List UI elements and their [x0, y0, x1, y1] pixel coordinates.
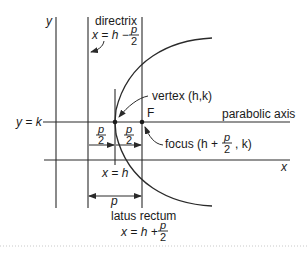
directrix-leader-arrow [91, 41, 104, 52]
x-axis-label: x [280, 160, 288, 174]
directrix-equation: x = h − [91, 28, 129, 42]
y-axis-label: y [45, 14, 53, 28]
focus-label: focus (h + [165, 137, 218, 151]
diagram-svg: y directrix x = h − p 2 vertex (h,k) F p… [0, 0, 307, 257]
axis-equation-label: y = k [15, 115, 43, 129]
focus-frac-den: 2 [224, 143, 230, 155]
directrix-frac-den: 2 [131, 35, 137, 47]
half-p-left-den: 2 [98, 134, 104, 146]
vertex-line-equation: x = h [101, 166, 129, 180]
half-p-right-den: 2 [126, 134, 132, 146]
focus-label-suffix: , k) [235, 137, 252, 151]
parabolic-axis-label: parabolic axis [222, 107, 295, 121]
vertex-point [113, 120, 118, 125]
latus-frac-num: p [159, 219, 166, 231]
focus-frac-num: p [223, 131, 230, 143]
latus-rectum-equation: x = h + [120, 225, 158, 239]
vertex-leader-arrow [119, 96, 148, 117]
parabola-diagram: y directrix x = h − p 2 vertex (h,k) F p… [0, 0, 307, 257]
focus-leader-arrow [145, 127, 163, 145]
latus-frac-den: 2 [160, 231, 166, 243]
directrix-frac-num: p [130, 23, 137, 35]
p-dimension-label: p [110, 194, 118, 208]
vertex-label: vertex (h,k) [152, 89, 212, 103]
latus-rectum-label: latus rectum [111, 209, 176, 223]
focus-point-label: F [147, 106, 154, 120]
focus-point [140, 120, 145, 125]
